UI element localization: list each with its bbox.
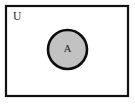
venn-diagram-svg: Venn diagram of set A inside universal s… [0, 0, 135, 104]
set-a-label: A [64, 43, 72, 54]
universal-set-label: U [13, 10, 22, 22]
venn-diagram-stage: Venn diagram of set A inside universal s… [0, 0, 135, 104]
